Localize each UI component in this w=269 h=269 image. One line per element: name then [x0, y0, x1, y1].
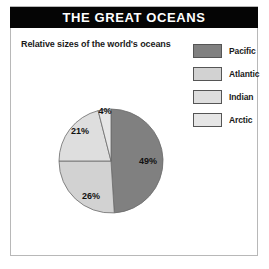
legend-swatch-atlantic — [193, 67, 222, 81]
legend-swatch-indian — [193, 90, 222, 104]
legend-label-atlantic: Atlantic — [229, 69, 259, 79]
legend-swatch-arctic — [193, 113, 222, 127]
pie-label-arctic: 4% — [98, 106, 111, 116]
legend-item-atlantic[interactable]: Atlantic — [193, 65, 265, 83]
legend-swatch-pacific — [193, 44, 222, 58]
legend-label-pacific: Pacific — [229, 46, 256, 56]
pie-label-indian: 21% — [71, 126, 89, 136]
title-bar: THE GREAT OCEANS — [10, 7, 258, 28]
legend-item-pacific[interactable]: Pacific — [193, 42, 265, 60]
legend: Pacific Atlantic Indian Arctic — [193, 42, 265, 134]
legend-item-indian[interactable]: Indian — [193, 88, 265, 106]
legend-label-arctic: Arctic — [229, 115, 253, 125]
legend-label-indian: Indian — [229, 92, 253, 102]
pie-label-pacific: 49% — [139, 156, 157, 166]
pie-slice-atlantic[interactable] — [59, 161, 114, 213]
legend-item-arctic[interactable]: Arctic — [193, 111, 265, 129]
pie-label-atlantic: 26% — [82, 191, 100, 201]
page-title: THE GREAT OCEANS — [63, 10, 206, 25]
chart-figure: THE GREAT OCEANS Relative sizes of the w… — [0, 0, 269, 269]
